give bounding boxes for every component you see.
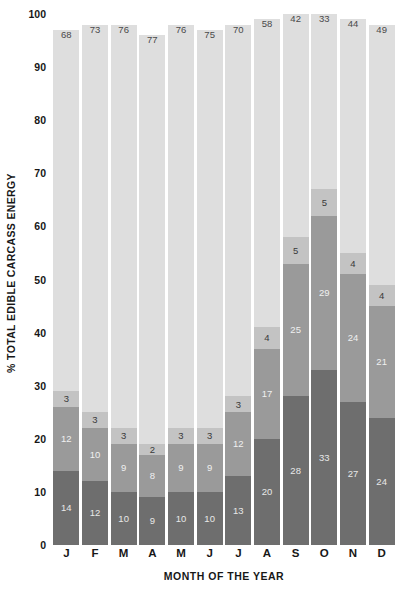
bar-segment: 12 <box>53 407 79 471</box>
bar-segment: 5 <box>283 237 309 264</box>
bar-segment-value: 68 <box>53 30 79 391</box>
bar-stack: 77289 <box>139 35 165 545</box>
bar-segment-value: 28 <box>290 466 301 476</box>
bar-stack: 7331012 <box>82 25 108 545</box>
bar-segment: 3 <box>197 428 223 444</box>
y-axis-tick-label: 60 <box>34 220 46 232</box>
bar-segment-value: 12 <box>90 508 101 518</box>
bar-column: 3352933 <box>311 14 337 545</box>
bar-segment: 44 <box>340 19 366 253</box>
y-axis-tick-label: 0 <box>40 539 46 551</box>
bar-segment: 3 <box>82 412 108 428</box>
bar-segment: 68 <box>53 30 79 391</box>
bar-stack: 7031213 <box>225 25 251 545</box>
bar-segment-value: 76 <box>111 25 137 429</box>
bar-segment-value: 70 <box>225 25 251 397</box>
x-axis-tick-label: J <box>225 547 251 559</box>
x-axis-title: MONTH OF THE YEAR <box>52 570 396 582</box>
bar-segment-value: 33 <box>311 14 337 189</box>
bar-segment-value: 21 <box>376 357 387 367</box>
bar-segment-value: 58 <box>254 19 280 327</box>
y-axis-tick-label: 80 <box>34 114 46 126</box>
bar-segment: 3 <box>225 396 251 412</box>
bar-segment-value: 4 <box>264 333 269 343</box>
bar-segment: 70 <box>225 25 251 397</box>
bar-segment: 10 <box>82 428 108 481</box>
bar-segment-value: 2 <box>150 445 155 455</box>
y-axis: 0102030405060708090100 <box>20 0 50 545</box>
y-axis-tick-label: 100 <box>28 8 46 20</box>
bar-segment-value: 4 <box>350 259 355 269</box>
x-axis-tick-label: S <box>283 547 309 559</box>
bar-segment-value: 17 <box>262 389 273 399</box>
bar-column: 4942124 <box>369 14 395 545</box>
bar-stack: 4252528 <box>283 14 309 545</box>
bar-segment-value: 75 <box>197 30 223 428</box>
x-axis-tick-label: M <box>111 547 137 559</box>
y-axis-tick-label: 50 <box>34 274 46 286</box>
bar-segment: 17 <box>254 349 280 439</box>
y-axis-tick-label: 20 <box>34 433 46 445</box>
bar-segment: 12 <box>82 481 108 545</box>
bar-segment: 4 <box>340 253 366 274</box>
bar-segment-value: 5 <box>293 246 298 256</box>
y-axis-title: % TOTAL EDIBLE CARCASS ENERGY <box>0 0 22 545</box>
bar-segment-value: 10 <box>204 514 215 524</box>
bar-segment: 77 <box>139 35 165 444</box>
bar-segment: 21 <box>369 306 395 418</box>
bar-segment-value: 77 <box>139 35 165 444</box>
bar-segment: 10 <box>197 492 223 545</box>
bar-stack: 4442427 <box>340 19 366 545</box>
x-axis: JFMAMJJASOND <box>52 545 396 567</box>
bar-stack: 6831214 <box>53 30 79 545</box>
bar-segment-value: 76 <box>168 25 194 429</box>
bar-segment: 28 <box>283 396 309 545</box>
bar-stack: 4942124 <box>369 25 395 545</box>
plot-area: 6831214733101276391077289763910753910703… <box>52 14 396 545</box>
x-axis-tick-label: O <box>311 547 337 559</box>
bar-segment-value: 42 <box>283 14 309 237</box>
bar-stack: 3352933 <box>311 14 337 545</box>
bar-column: 7031213 <box>225 14 251 545</box>
bar-segment: 5 <box>311 189 337 216</box>
bar-column: 753910 <box>197 14 223 545</box>
bar-stack: 5841720 <box>254 19 280 545</box>
x-axis-tick-label: F <box>82 547 108 559</box>
y-axis-title-label: % TOTAL EDIBLE CARCASS ENERGY <box>5 173 17 373</box>
bar-segment-value: 10 <box>176 514 187 524</box>
bar-column: 763910 <box>111 14 137 545</box>
bar-segment: 75 <box>197 30 223 428</box>
y-axis-tick-label: 30 <box>34 380 46 392</box>
bar-segment: 76 <box>168 25 194 429</box>
bar-segment-value: 73 <box>82 25 108 413</box>
bar-segment-value: 13 <box>233 506 244 516</box>
bar-stack: 763910 <box>168 25 194 545</box>
bar-segment: 73 <box>82 25 108 413</box>
bar-segment-value: 3 <box>178 431 183 441</box>
bar-segment: 58 <box>254 19 280 327</box>
bar-segment-value: 3 <box>64 394 69 404</box>
bar-stack: 753910 <box>197 30 223 545</box>
x-axis-tick-label: A <box>139 547 165 559</box>
bar-column: 4442427 <box>340 14 366 545</box>
bar-segment: 24 <box>340 274 366 401</box>
bar-segment: 12 <box>225 412 251 476</box>
x-axis-tick-label: N <box>340 547 366 559</box>
bar-segment: 3 <box>111 428 137 444</box>
bar-segment: 20 <box>254 439 280 545</box>
x-axis-tick-label: A <box>254 547 280 559</box>
x-axis-tick-label: J <box>197 547 223 559</box>
bar-segment-value: 10 <box>90 450 101 460</box>
bar-stack: 763910 <box>111 25 137 545</box>
bar-segment: 9 <box>197 444 223 492</box>
stacked-bar-chart: % TOTAL EDIBLE CARCASS ENERGY 0102030405… <box>0 0 398 604</box>
bar-segment-value: 8 <box>150 471 155 481</box>
bar-segment: 25 <box>283 264 309 397</box>
bar-segment: 10 <box>111 492 137 545</box>
bar-segment: 3 <box>53 391 79 407</box>
bar-segment-value: 25 <box>290 325 301 335</box>
bar-column: 7331012 <box>82 14 108 545</box>
bar-segment-value: 9 <box>150 516 155 526</box>
bar-segment: 33 <box>311 14 337 189</box>
bar-segment-value: 3 <box>121 431 126 441</box>
